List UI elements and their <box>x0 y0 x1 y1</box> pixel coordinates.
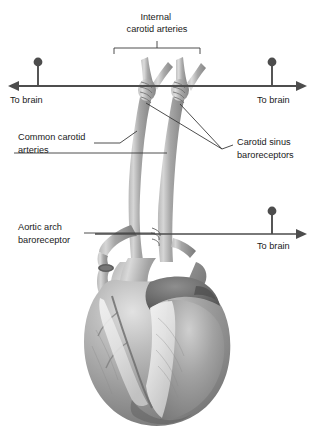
aortic-nerve-to-brain <box>95 207 307 239</box>
right-common-carotid-artery <box>158 84 188 262</box>
label-to-brain-right-top: To brain <box>257 95 290 105</box>
carotid-sinus-leader-stub <box>222 145 233 149</box>
arrowhead-right <box>296 229 307 239</box>
baroreceptor-diagram: Internal carotid arteries To brain To br… <box>0 0 315 428</box>
common-carotid-leader-a <box>94 131 137 143</box>
label-internal-carotid-line1: Internal <box>140 12 171 22</box>
label-common-carotid-line1: Common carotid <box>18 132 85 142</box>
nerve-terminal-ball <box>268 58 277 67</box>
right-subclavian-branch <box>171 238 196 258</box>
label-carotid-sinus-line1: Carotid sinus <box>237 137 291 147</box>
label-carotid-sinus-line2: baroreceptors <box>237 150 294 160</box>
label-to-brain-right-bottom: To brain <box>257 241 290 251</box>
label-to-brain-left: To brain <box>10 95 43 105</box>
vessel-lumen-inner <box>100 265 112 270</box>
carotid-sinus-leader-right <box>180 104 222 149</box>
arrowhead-left <box>8 81 19 91</box>
label-aortic-arch-line2: baroreceptor <box>18 235 70 245</box>
label-carotid-sinus-baroreceptors: Carotid sinus baroreceptors <box>237 137 294 160</box>
label-aortic-arch-baroreceptor: Aortic arch baroreceptor <box>18 222 70 245</box>
label-internal-carotid-arteries: Internal carotid arteries <box>127 12 188 34</box>
heart-illustration <box>84 276 230 426</box>
label-to-brain-right-top-text: To brain <box>257 95 290 105</box>
nerve-terminal-ball <box>268 207 277 216</box>
left-carotid-sinus <box>138 79 156 101</box>
arrowhead-right <box>296 81 307 91</box>
label-to-brain-right-bottom-text: To brain <box>257 241 290 251</box>
right-carotid-nerve-to-brain <box>150 58 307 91</box>
label-common-carotid-line2: arteries <box>18 145 49 155</box>
label-aortic-arch-line1: Aortic arch <box>18 222 62 232</box>
label-internal-carotid-line2: carotid arteries <box>127 24 188 34</box>
label-common-carotid-arteries: Common carotid arteries <box>18 132 88 155</box>
label-to-brain-left-text: To brain <box>10 95 43 105</box>
internal-carotid-bracket <box>114 48 200 54</box>
right-carotid-sinus <box>171 79 189 101</box>
carotid-sinus-leader-left <box>146 103 222 149</box>
nerve-terminal-ball <box>34 58 43 67</box>
figure-canvas: Internal carotid arteries To brain To br… <box>0 0 315 428</box>
